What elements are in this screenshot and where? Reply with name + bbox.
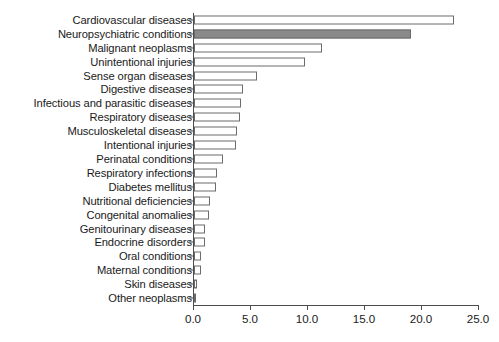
category-label: Maternal conditions <box>97 264 192 276</box>
y-axis-tick <box>189 200 193 201</box>
bar-row: Malignant neoplasms <box>0 41 499 55</box>
bar <box>194 43 322 52</box>
y-axis-tick <box>189 158 193 159</box>
category-label: Endocrine disorders <box>94 236 192 248</box>
category-label: Infectious and parasitic diseases <box>34 97 192 109</box>
category-label: Genitourinary diseases <box>80 223 192 235</box>
bar <box>194 154 223 163</box>
category-label: Digestive diseases <box>101 83 192 95</box>
bar <box>194 266 201 275</box>
x-axis-tick-label: 25.0 <box>467 312 490 325</box>
bar-row: Perinatal conditions <box>0 152 499 166</box>
category-label: Cardiovascular diseases <box>72 14 192 26</box>
category-label: Congenital anomalies <box>86 209 192 221</box>
bar-row: Skin diseases <box>0 277 499 291</box>
bar <box>194 99 241 108</box>
bar <box>194 113 240 122</box>
bar <box>194 141 236 150</box>
y-axis-tick <box>189 145 193 146</box>
y-axis-tick <box>189 284 193 285</box>
y-axis-tick <box>189 19 193 20</box>
category-label: Malignant neoplasms <box>88 42 192 54</box>
bar-row: Congenital anomalies <box>0 208 499 222</box>
bar <box>194 182 216 191</box>
bar-chart: Cardiovascular diseasesNeuropsychiatric … <box>0 0 499 342</box>
x-axis-tick-label: 20.0 <box>410 312 433 325</box>
bar-row: Diabetes mellitus <box>0 180 499 194</box>
bar-row: Genitourinary diseases <box>0 222 499 236</box>
bar-row: Nutritional deficiencies <box>0 194 499 208</box>
bar-row: Intentional injuries <box>0 138 499 152</box>
category-label: Respiratory diseases <box>90 111 192 123</box>
bar <box>194 196 210 205</box>
x-axis-tick <box>307 306 308 310</box>
bar <box>194 210 209 219</box>
bar-row: Sense organ diseases <box>0 69 499 83</box>
category-label: Skin diseases <box>124 278 192 290</box>
bar-rows: Cardiovascular diseasesNeuropsychiatric … <box>0 13 499 305</box>
bar <box>194 168 217 177</box>
category-label: Perinatal conditions <box>96 153 192 165</box>
bar <box>194 85 243 94</box>
category-label: Nutritional deficiencies <box>82 195 192 207</box>
x-axis-tick <box>193 306 194 310</box>
category-label: Oral conditions <box>119 250 192 262</box>
x-axis-tick <box>364 306 365 310</box>
category-label: Respiratory infections <box>87 167 192 179</box>
bar <box>194 57 305 66</box>
y-axis-tick <box>189 270 193 271</box>
x-axis-tick-label: 5.0 <box>242 312 258 325</box>
category-label: Diabetes mellitus <box>109 181 193 193</box>
bar-row: Respiratory infections <box>0 166 499 180</box>
category-label: Intentional injuries <box>104 139 192 151</box>
y-axis-tick <box>189 61 193 62</box>
bar <box>194 15 454 24</box>
y-axis-tick <box>189 89 193 90</box>
y-axis-tick <box>189 131 193 132</box>
y-axis-tick <box>189 214 193 215</box>
x-axis-tick <box>478 306 479 310</box>
category-label: Sense organ diseases <box>83 70 192 82</box>
bar-row: Unintentional injuries <box>0 55 499 69</box>
category-label: Musculoskeletal diseases <box>68 125 192 137</box>
x-axis-line <box>193 305 479 306</box>
bar <box>194 280 197 289</box>
y-axis-tick <box>189 242 193 243</box>
bar-row: Neuropsychiatric conditions <box>0 27 499 41</box>
x-axis-tick <box>250 306 251 310</box>
y-axis-tick <box>189 103 193 104</box>
bar <box>194 294 196 303</box>
y-axis-tick <box>189 117 193 118</box>
bar <box>194 238 205 247</box>
bar-row: Respiratory diseases <box>0 110 499 124</box>
y-axis-tick <box>189 75 193 76</box>
bar-row: Maternal conditions <box>0 263 499 277</box>
bar-row: Other neoplasms <box>0 291 499 305</box>
bar <box>194 224 205 233</box>
bar-row: Endocrine disorders <box>0 235 499 249</box>
bar <box>194 252 201 261</box>
y-axis-tick <box>189 172 193 173</box>
bar <box>194 127 237 136</box>
y-axis-tick <box>189 298 193 299</box>
x-axis-tick-label: 0.0 <box>185 312 201 325</box>
y-axis-tick <box>189 47 193 48</box>
bar-row: Musculoskeletal diseases <box>0 124 499 138</box>
x-axis-tick-label: 10.0 <box>296 312 319 325</box>
bar-row: Digestive diseases <box>0 83 499 97</box>
category-label: Other neoplasms <box>108 292 192 304</box>
y-axis-tick <box>189 256 193 257</box>
bar-row: Oral conditions <box>0 249 499 263</box>
bar-row: Infectious and parasitic diseases <box>0 96 499 110</box>
y-axis-tick <box>189 228 193 229</box>
x-axis-tick <box>421 306 422 310</box>
y-axis-tick <box>189 186 193 187</box>
bar <box>194 71 257 80</box>
category-label: Neuropsychiatric conditions <box>58 28 192 40</box>
x-axis-tick-label: 15.0 <box>353 312 376 325</box>
bar-row: Cardiovascular diseases <box>0 13 499 27</box>
y-axis-tick <box>189 33 193 34</box>
bar-highlighted <box>194 29 411 38</box>
category-label: Unintentional injuries <box>90 56 192 68</box>
